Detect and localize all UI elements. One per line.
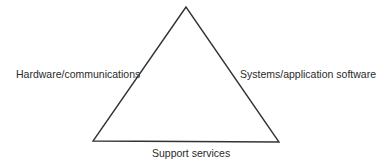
triangle-shape <box>0 0 383 166</box>
triangle-diagram: Hardware/communications Systems/applicat… <box>0 0 383 166</box>
label-hardware-communications: Hardware/communications <box>16 68 140 80</box>
label-support-services: Support services <box>152 147 230 159</box>
label-systems-application-software: Systems/application software <box>240 68 376 80</box>
